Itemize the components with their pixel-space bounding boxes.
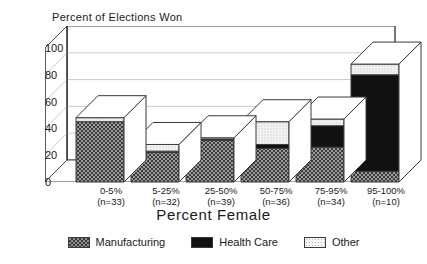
x-tick-label: 95-100%(n=10)	[367, 185, 405, 207]
x-tick-label-range: 75-95%	[315, 185, 348, 196]
x-tick-label-range: 0-5%	[97, 185, 125, 196]
legend-swatch-health-care	[191, 237, 213, 248]
legend-label-health-care: Health Care	[219, 236, 278, 248]
x-tick-label: 50-75%(n=36)	[260, 185, 293, 207]
x-tick-label: 5-25%(n=32)	[152, 185, 180, 207]
chart-title: Percent of Elections Won	[52, 11, 183, 23]
chart-container: Percent of Elections Won	[0, 0, 427, 264]
x-tick-label-range: 95-100%	[367, 185, 405, 196]
bars-layer	[45, 26, 397, 182]
x-tick-label: 25-50%(n=39)	[205, 185, 238, 207]
plot-area: 100 80 60 40 20 0	[45, 26, 395, 178]
x-tick-label: 75-95%(n=34)	[315, 185, 348, 207]
x-tick-label-range: 50-75%	[260, 185, 293, 196]
legend-item-manufacturing[interactable]: Manufacturing	[68, 236, 166, 248]
x-tick-label-range: 25-50%	[205, 185, 238, 196]
bars-svg	[45, 26, 397, 186]
x-axis-title: Percent Female	[0, 206, 427, 223]
legend-item-health-care[interactable]: Health Care	[191, 236, 278, 248]
chart-legend: Manufacturing Health Care Other	[0, 236, 427, 248]
legend-label-manufacturing: Manufacturing	[96, 236, 166, 248]
legend-swatch-manufacturing	[68, 237, 90, 248]
x-tick-label-range: 5-25%	[152, 185, 180, 196]
legend-swatch-other	[304, 237, 326, 248]
x-tick-label: 0-5%(n=33)	[97, 185, 125, 207]
legend-item-other[interactable]: Other	[304, 236, 360, 248]
bar-group[interactable]	[76, 96, 146, 182]
legend-label-other: Other	[332, 236, 360, 248]
